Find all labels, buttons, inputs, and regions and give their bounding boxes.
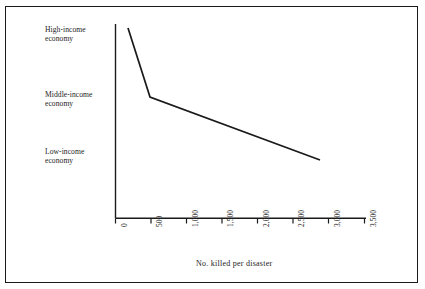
x-tick-label-1500: 1,500 — [226, 210, 235, 227]
x-tick-label-500: 500 — [155, 216, 164, 227]
x-tick-label-3000: 3,000 — [333, 210, 342, 227]
y-label-middle-income: Middle-income economy — [45, 90, 111, 108]
x-tick-label-3500: 3,500 — [369, 210, 378, 227]
chart-figure: High-income economy Middle-income econom… — [0, 0, 425, 289]
x-axis-title: No. killed per disaster — [196, 259, 272, 268]
y-label-low-income: Low-income economy — [45, 147, 111, 165]
x-tick-label-1000: 1,000 — [191, 210, 200, 227]
x-tick-label-2500: 2,500 — [297, 210, 306, 227]
x-tick-label-0: 0 — [120, 223, 129, 227]
data-line-series-1 — [128, 28, 320, 160]
x-axis-ticks — [116, 218, 365, 223]
y-label-high-income: High-income economy — [45, 25, 111, 43]
x-tick-label-2000: 2,000 — [262, 210, 271, 227]
